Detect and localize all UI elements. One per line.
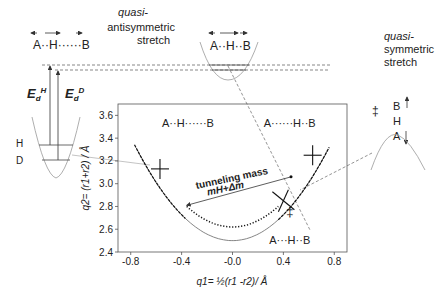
annotation-0: A··H······B (162, 117, 214, 129)
y-tick-label: 3.0 (99, 178, 113, 189)
x-axis-label: q1= ½(r1 -r2)/ Å (197, 275, 268, 287)
top-mode-label-1: quasi- (118, 6, 148, 18)
annotation-2: A···H··B (269, 234, 310, 246)
right-mode-label-3: stretch (384, 56, 417, 68)
x-tick-label: -0.4 (173, 256, 191, 267)
y-axis-ticks: 2.42.62.83.03.23.43.6 (99, 110, 118, 258)
y-tick-label: 3.6 (99, 110, 113, 121)
y-tick-label: 2.8 (99, 201, 113, 212)
series-line-outer-left (135, 145, 186, 219)
level-label-d: D (16, 155, 23, 166)
y-tick-label: 3.2 (99, 155, 113, 166)
right-mode-label-1: quasi- (384, 30, 414, 42)
y-tick-label: 3.4 (99, 133, 113, 144)
figure: A··H······B EdH EdD H D quasi- antisymme… (0, 0, 437, 294)
energy-label-h: EdH (27, 86, 47, 103)
right-atom-b: B (393, 100, 400, 112)
top-connector (228, 66, 310, 230)
x-tick-label: 0.8 (327, 256, 341, 267)
x-tick-label: -0.8 (122, 256, 140, 267)
right-mode-label-2: symmetric (384, 43, 435, 55)
series-line-tunneling-path (187, 206, 279, 227)
x-tick-label: -0.0 (224, 256, 242, 267)
energy-label-d: EdD (65, 86, 85, 103)
series-layer (135, 145, 330, 241)
annotation-1: A······H··B (264, 117, 316, 129)
annotation-5: ‡ (286, 204, 293, 219)
x-tick-label: 0.4 (276, 256, 290, 267)
y-tick-label: 2.6 (99, 224, 113, 235)
right-ts-symbol: ‡ (372, 104, 379, 118)
left-inset: A··H······B EdH EdD H D (16, 33, 330, 178)
level-label-h: H (16, 138, 23, 149)
right-atom-h: H (393, 115, 401, 127)
right-inset: quasi- symmetric stretch B H A ‡ (300, 30, 435, 190)
left-complex-label: A··H······B (33, 38, 90, 52)
y-tick-label: 2.4 (99, 247, 113, 258)
top-mode-label-2: antisymmetric (107, 21, 175, 33)
right-connector (300, 153, 372, 190)
x-axis-ticks: -0.8-0.4-0.00.40.8 (122, 252, 342, 267)
left-potential-well (32, 117, 80, 178)
top-complex-label: A··H··B (210, 39, 251, 53)
y-axis-label: q2= (r1+r2) / Å (79, 145, 91, 210)
chart: -0.8-0.4-0.00.40.8 2.42.62.83.03.23.43.6… (79, 104, 347, 287)
top-mode-label-3: stretch (137, 34, 170, 46)
tunneling-arrow-tail (290, 175, 293, 178)
